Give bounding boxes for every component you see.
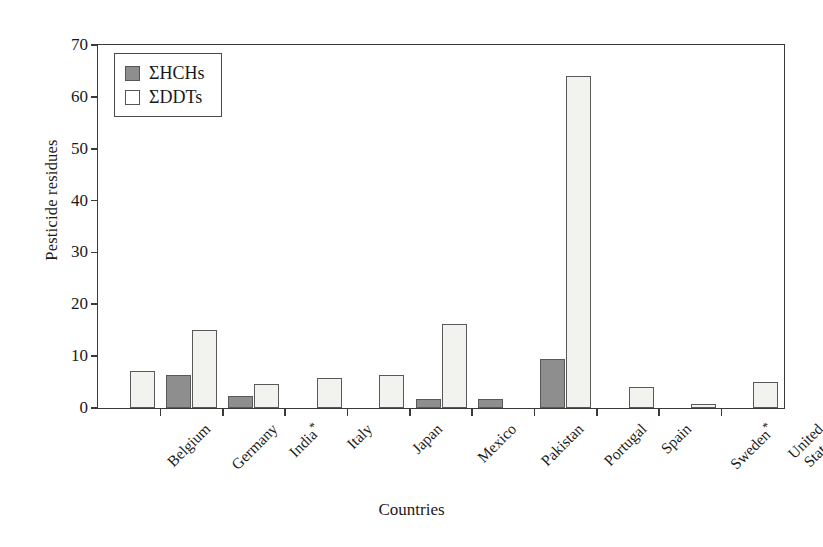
x-category-label: Portugal: [600, 420, 649, 469]
legend-label-ddts: ΣDDTs: [149, 88, 202, 106]
footnote-asterisk: *: [760, 419, 774, 433]
y-tick-label: 50: [42, 139, 88, 156]
bar-hchs: [540, 359, 565, 408]
legend-item-hchs: ΣHCHs: [125, 61, 205, 85]
x-tick-mark: [658, 408, 660, 416]
chart-legend: ΣHCHs ΣDDTs: [114, 53, 222, 117]
y-tick-mark: [91, 252, 98, 254]
x-category-label: Pakistan: [538, 420, 587, 469]
bar-hchs: [228, 396, 253, 408]
legend-swatch-ddts-icon: [125, 90, 140, 105]
bar-ddts: [442, 324, 467, 408]
y-tick-mark: [91, 303, 98, 305]
bar-ddts: [130, 371, 155, 408]
x-tick-mark: [721, 408, 723, 416]
legend-label-hchs: ΣHCHs: [149, 64, 205, 82]
x-axis-category-labels: BelgiumGermanyIndia*ItalyJapanMexicoPaki…: [97, 420, 785, 510]
x-tick-mark: [284, 408, 286, 416]
y-tick-mark: [91, 44, 98, 46]
bar-ddts: [317, 378, 342, 408]
y-tick-label: 20: [42, 295, 88, 312]
x-category-label: Sweden*: [726, 420, 779, 473]
x-category-label: Germany: [227, 420, 280, 473]
y-tick-label: 10: [42, 347, 88, 364]
y-tick-mark: [91, 96, 98, 98]
x-tick-mark: [409, 408, 411, 416]
y-tick-label: 0: [42, 399, 88, 416]
x-tick-mark: [347, 408, 349, 416]
legend-item-ddts: ΣDDTs: [125, 85, 205, 109]
x-tick-mark: [534, 408, 536, 416]
bar-ddts: [254, 384, 279, 408]
y-tick-mark: [91, 407, 98, 409]
x-category-label: Belgium: [164, 420, 214, 470]
y-tick-label: 40: [42, 191, 88, 208]
x-tick-mark: [160, 408, 162, 416]
y-tick-label: 30: [42, 243, 88, 260]
x-axis-title: Countries: [0, 500, 823, 520]
x-category-label: Italy: [344, 420, 376, 452]
bar-ddts: [379, 375, 404, 408]
plot-area: ΣHCHs ΣDDTs: [97, 44, 785, 409]
x-tick-mark: [222, 408, 224, 416]
x-category-label: Mexico: [474, 420, 520, 466]
y-tick-mark: [91, 148, 98, 150]
bar-ddts: [629, 387, 654, 408]
x-tick-mark: [596, 408, 598, 416]
x-category-label: Spain: [657, 420, 694, 457]
x-tick-mark: [471, 408, 473, 416]
bar-hchs: [416, 399, 441, 408]
x-category-label: UnitedStates: [784, 420, 823, 474]
y-tick-label: 70: [42, 36, 88, 53]
bar-ddts: [192, 330, 217, 408]
bar-hchs: [478, 399, 503, 408]
bar-ddts: [566, 76, 591, 408]
y-axis-tick-labels: 010203040506070: [42, 0, 88, 547]
legend-swatch-hchs-icon: [125, 66, 140, 81]
x-category-label: India*: [284, 420, 325, 461]
bar-ddts: [691, 404, 716, 408]
y-tick-label: 60: [42, 87, 88, 104]
y-tick-mark: [91, 200, 98, 202]
bar-ddts: [753, 382, 778, 408]
x-category-label: Japan: [408, 420, 445, 457]
chart-figure: Pesticide residues 010203040506070 ΣHCHs…: [0, 0, 823, 547]
bar-hchs: [166, 375, 191, 408]
y-tick-mark: [91, 355, 98, 357]
footnote-asterisk: *: [306, 419, 320, 433]
